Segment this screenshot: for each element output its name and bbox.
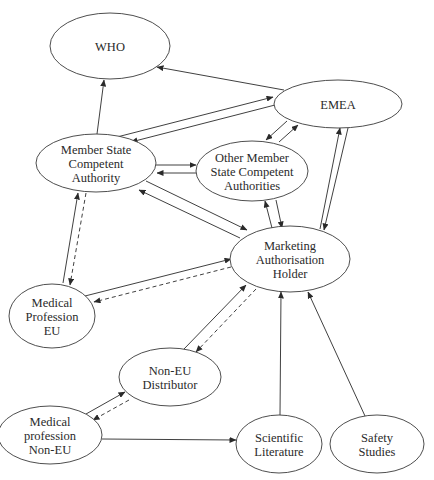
- node-scilit: ScientificLiterature: [236, 415, 322, 473]
- node-label-line: profession: [24, 429, 77, 443]
- diagram-canvas: WHOEMEAMember StateCompetentAuthorityOth…: [0, 0, 434, 480]
- arrow-mp_noneu-to-noneu_dist: [86, 392, 125, 414]
- node-omsca: Other MemberState CompetentAuthorities: [196, 141, 308, 201]
- nodes-layer: WHOEMEAMember StateCompetentAuthorityOth…: [0, 13, 424, 473]
- node-emea: EMEA: [274, 80, 402, 128]
- arrow-noneu_dist-to-mah: [184, 285, 246, 349]
- arrow-emea-to-msca: [131, 105, 275, 142]
- node-label-line: Member State: [61, 143, 132, 157]
- pharmacovigilance-flow-diagram: WHOEMEAMember StateCompetentAuthorityOth…: [0, 0, 434, 480]
- node-label-line: Non-EU: [149, 364, 191, 378]
- arrow-noneu_dist-to-mp_noneu: [93, 400, 129, 420]
- arrow-mpeu-to-msca: [63, 193, 78, 283]
- node-label-line: State Competent: [211, 165, 294, 179]
- node-label-line: Authorities: [224, 179, 280, 193]
- node-msca: Member StateCompetentAuthority: [36, 134, 156, 192]
- arrow-mpeu-to-mah: [85, 259, 231, 296]
- node-label-line: Other Member: [215, 151, 290, 165]
- node-mp_noneu: MedicalprofessionNon-EU: [0, 406, 102, 464]
- node-label-line: Medical: [30, 415, 71, 429]
- arrow-emea-to-mah: [324, 128, 348, 230]
- node-mah: MarketingAuthorisationHolder: [230, 226, 350, 292]
- arrow-omsca-to-emea: [279, 125, 298, 142]
- arrow-mp_noneu-to-scilit: [102, 439, 236, 440]
- node-label-line: WHO: [95, 40, 125, 54]
- node-label-line: Scientific: [255, 431, 303, 445]
- node-safety: SafetyStudies: [330, 415, 424, 473]
- arrow-safety-to-mah: [308, 292, 365, 416]
- arrow-mah-to-emea: [320, 128, 340, 229]
- arrow-omsca-to-mah: [276, 200, 282, 228]
- node-label-line: Studies: [359, 445, 396, 459]
- node-label-line: Holder: [273, 267, 309, 281]
- node-mpeu: MedicalProfessionEU: [9, 284, 95, 348]
- node-label-line: Distributor: [143, 378, 199, 392]
- node-label-line: Marketing: [264, 239, 317, 253]
- node-label-line: Profession: [26, 310, 80, 324]
- arrow-mah-to-noneu_dist: [196, 289, 256, 352]
- node-label-line: Safety: [361, 431, 394, 445]
- arrow-emea-to-who: [157, 67, 284, 90]
- node-label-line: Non-EU: [29, 443, 71, 457]
- node-label-line: EMEA: [320, 98, 355, 112]
- arrow-msca-to-mpeu: [70, 193, 86, 285]
- node-noneu_dist: Non-EUDistributor: [119, 348, 221, 406]
- node-label-line: Authorisation: [256, 253, 325, 267]
- node-who: WHO: [50, 13, 170, 79]
- arrow-mah-to-mpeu: [94, 267, 231, 302]
- node-label-line: Competent: [69, 157, 124, 171]
- arrow-mah-to-omsca: [265, 201, 272, 228]
- node-label-line: Literature: [254, 445, 304, 459]
- arrow-msca-to-emea: [117, 97, 273, 137]
- node-label-line: EU: [44, 324, 61, 338]
- node-label-line: Medical: [32, 296, 73, 310]
- arrow-scilit-to-mah: [280, 292, 281, 415]
- arrow-msca-to-who: [97, 80, 104, 134]
- node-label-line: Authority: [72, 171, 121, 185]
